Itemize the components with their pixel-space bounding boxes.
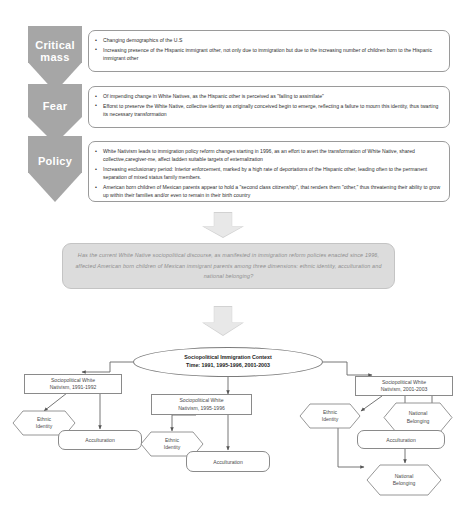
bullet-item: White Nativism leads to immigration poli… — [95, 147, 442, 164]
node-label: Acculturation — [386, 437, 415, 443]
node-label-line2: Identity — [36, 423, 52, 430]
box-acculturation-1991: Acculturation — [58, 430, 142, 450]
stage-chevron-fear: Fear — [28, 84, 82, 144]
branch-title-line2: Nativism, 1995-1996 — [178, 405, 225, 412]
bullet-item: American born children of Mexican parent… — [95, 183, 442, 200]
down-arrow-to-flowchart — [202, 306, 244, 336]
stage-callout-fear: Of impending change in White Natives, as… — [88, 86, 450, 128]
bullet-item: Increasing exclusionary period: Interior… — [95, 165, 442, 182]
box-acculturation-2001: Acculturation — [357, 430, 445, 449]
branch-title-line1: Sociopolitical White — [382, 379, 426, 386]
node-label-line1: National — [393, 473, 416, 480]
bullet-item: Changing demographics of the U.S — [95, 36, 442, 44]
bullet-item: Increasing presence of the Hispanic immi… — [95, 46, 442, 63]
branch-box-2001-2003: Sociopolitical White Nativism, 2001-2003 — [355, 376, 453, 396]
bullet-item: Of impending change in White Natives, as… — [95, 92, 442, 100]
stage-chevron-policy: Policy — [28, 136, 82, 202]
context-line2: Time: 1991, 1995-1996, 2001-2003 — [186, 362, 270, 370]
research-question-text: Has the current White Native sociopoliti… — [75, 250, 382, 282]
node-label-line1: Ethnic — [36, 416, 52, 423]
node-label: Acculturation — [213, 459, 242, 465]
branch-title-line2: Nativism, 1991-1992 — [50, 384, 97, 391]
stage-callout-policy: White Nativism leads to immigration poli… — [88, 141, 450, 202]
node-label-line1: Ethnic — [322, 409, 338, 416]
down-arrow-to-question — [202, 212, 244, 238]
node-label-line1: Ethnic — [164, 437, 180, 444]
box-acculturation-1995: Acculturation — [186, 451, 270, 472]
bullet-item: Efforst to preserve the White Native, co… — [95, 102, 442, 119]
flowchart-region: Sociopolitical Immigration Context Time:… — [0, 345, 456, 526]
node-label-line2: Identity — [164, 444, 180, 451]
hexagon-national-belonging-2001-lower: National Belonging — [366, 464, 442, 496]
stage-chevron-critical-mass: Critical mass — [28, 26, 82, 92]
branch-title-line2: Nativism, 2001-2003 — [381, 386, 428, 393]
hexagon-label: National Belonging — [366, 464, 442, 496]
node-label-line1: National — [407, 410, 430, 417]
hexagon-national-belonging-2001-upper: National Belonging — [383, 402, 453, 433]
branch-box-1995-1996: Sociopolitical White Nativism, 1995-1996 — [151, 394, 252, 415]
node-label-line2: Identity — [322, 416, 338, 423]
stage-callout-critical-mass: Changing demographics of the U.S Increas… — [88, 30, 450, 72]
node-label-line2: Belonging — [393, 480, 416, 487]
stage-label-line1: Fear — [43, 101, 67, 113]
branch-title-line1: Sociopolitical White — [179, 397, 223, 404]
research-question-box: Has the current White Native sociopoliti… — [62, 243, 395, 289]
diagram-canvas: Critical mass Changing demographics of t… — [0, 0, 456, 526]
stage-label-line2: mass — [35, 52, 75, 64]
node-label: Acculturation — [85, 437, 114, 443]
hexagon-label: National Belonging — [383, 402, 453, 433]
context-line1: Sociopolitical Immigration Context — [184, 354, 271, 362]
hexagon-ethnic-identity-2001: Ethnic Identity — [299, 403, 361, 429]
branch-box-1991-1992: Sociopolitical White Nativism, 1991-1992 — [24, 374, 122, 394]
stage-label-line1: Policy — [38, 156, 72, 168]
hexagon-label: Ethnic Identity — [299, 403, 361, 429]
node-label-line2: Belonging — [407, 418, 430, 425]
context-ellipse: Sociopolitical Immigration Context Time:… — [133, 347, 323, 377]
branch-title-line1: Sociopolitical White — [51, 377, 95, 384]
